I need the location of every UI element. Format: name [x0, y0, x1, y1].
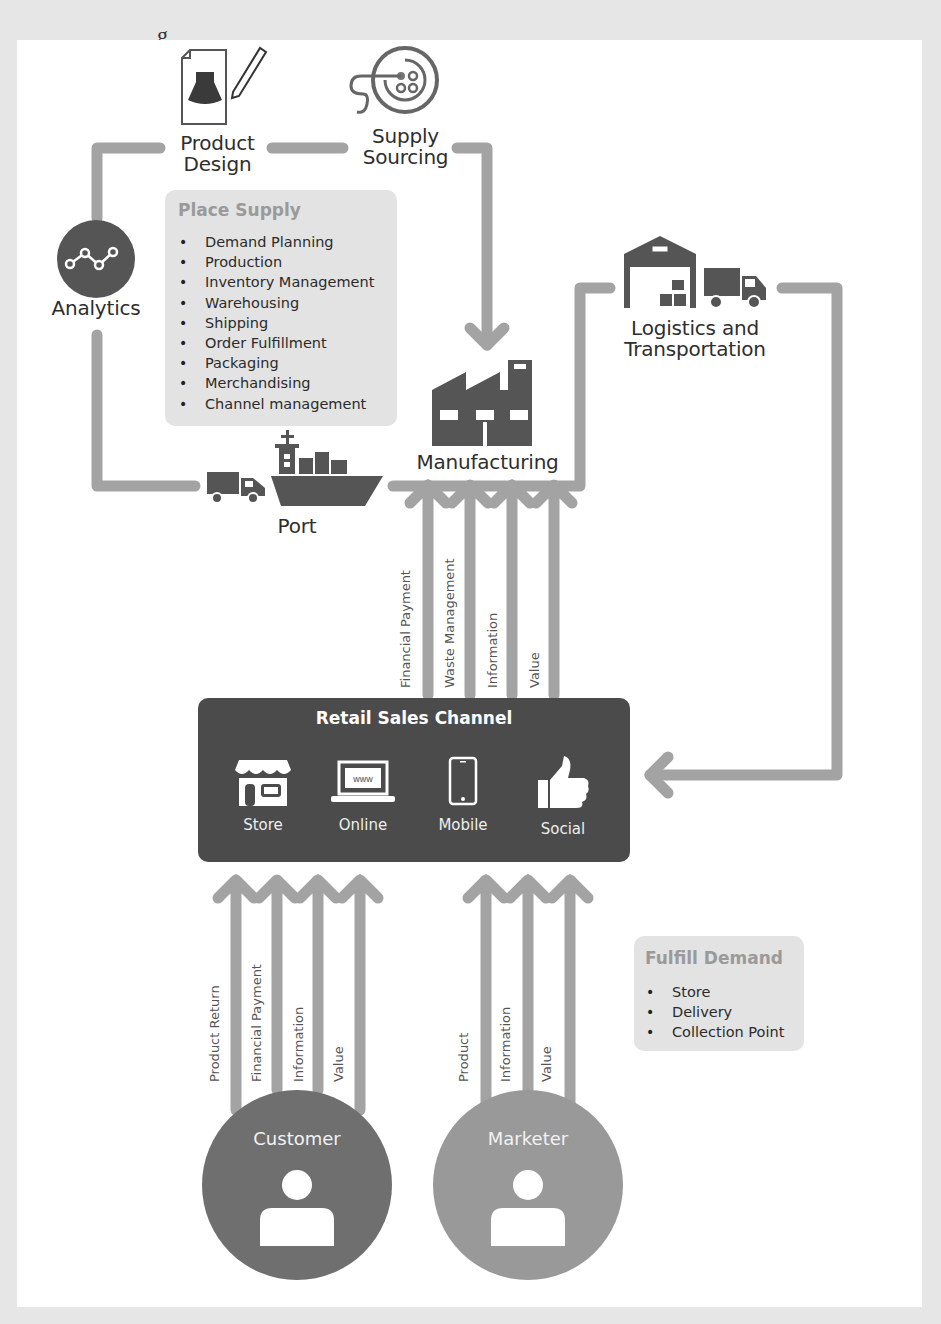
connector-logistics-retail — [650, 288, 837, 775]
channel-label: Store — [223, 816, 303, 834]
place-supply-title: Place Supply — [178, 200, 301, 220]
channel-label: Mobile — [423, 816, 503, 834]
list-item: Shipping — [175, 313, 374, 333]
customer-node: Customer — [202, 1090, 392, 1280]
truck-ship-icon — [207, 430, 383, 510]
marketer-label: Marketer — [433, 1128, 623, 1149]
fulfill-demand-list: Store Delivery Collection Point — [642, 982, 784, 1043]
laptop-www-icon: www — [331, 756, 395, 806]
dress-design-sheet-icon — [178, 40, 270, 132]
logistics-label: Logistics and Transportation — [610, 318, 780, 360]
channel-social: Social — [523, 756, 603, 838]
list-item: Production — [175, 252, 374, 272]
list-item: Packaging — [175, 353, 374, 373]
place-supply-list: Demand Planning Production Inventory Man… — [175, 232, 374, 414]
list-item: Warehousing — [175, 293, 374, 313]
flow-label: Information — [291, 1007, 306, 1082]
place-supply-box: Place Supply Demand Planning Production … — [165, 190, 397, 426]
list-item: Collection Point — [642, 1022, 784, 1042]
flow-label: Product — [456, 1033, 471, 1082]
manufacturing-label: Manufacturing — [405, 452, 570, 473]
person-icon — [491, 1170, 565, 1246]
line-graph-icon — [57, 220, 135, 298]
list-item: Store — [642, 982, 784, 1002]
product-design-label: Product Design — [170, 133, 265, 175]
analytics-label: Analytics — [40, 298, 152, 319]
flow-label: Information — [485, 613, 500, 688]
channel-label: Online — [323, 816, 403, 834]
list-item: Delivery — [642, 1002, 784, 1022]
flow-label: Value — [539, 1046, 554, 1082]
svg-text:www: www — [352, 774, 373, 784]
marketer-node: Marketer — [433, 1090, 623, 1280]
port-label: Port — [262, 516, 332, 537]
list-item: Order Fulfillment — [175, 333, 374, 353]
flow-label: Product Return — [207, 985, 222, 1082]
thumbs-up-icon — [536, 756, 590, 810]
flow-label: Financial Payment — [249, 964, 264, 1082]
warehouse-truck-icon — [624, 236, 769, 312]
customer-label: Customer — [202, 1128, 392, 1149]
person-icon — [260, 1170, 334, 1246]
supply-sourcing-label: Supply Sourcing — [348, 126, 463, 168]
flow-label: Waste Management — [442, 558, 457, 688]
flow-label: Information — [498, 1007, 513, 1082]
smartphone-icon — [448, 756, 478, 806]
connector-design-analytics — [97, 148, 160, 218]
channel-label: Social — [523, 820, 603, 838]
fulfill-demand-box: Fulfill Demand Store Delivery Collection… — [634, 936, 804, 1051]
retail-title: Retail Sales Channel — [198, 708, 630, 728]
channel-store: Store — [223, 756, 303, 834]
channel-mobile: Mobile — [423, 756, 503, 834]
list-item: Inventory Management — [175, 272, 374, 292]
factory-icon — [432, 360, 538, 450]
storefront-icon — [235, 756, 291, 806]
connector-supply-manufacturing — [457, 148, 487, 345]
list-item: Channel management — [175, 394, 374, 414]
retail-sales-channel-box: Retail Sales Channel Store www Online Mo… — [198, 698, 630, 862]
flow-label: Value — [527, 652, 542, 688]
list-item: Merchandising — [175, 373, 374, 393]
flow-label: Financial Payment — [398, 570, 413, 688]
button-thread-icon — [343, 44, 443, 124]
channel-online: www Online — [323, 756, 403, 834]
list-item: Demand Planning — [175, 232, 374, 252]
flow-label: Value — [331, 1046, 346, 1082]
fulfill-demand-title: Fulfill Demand — [645, 948, 783, 968]
